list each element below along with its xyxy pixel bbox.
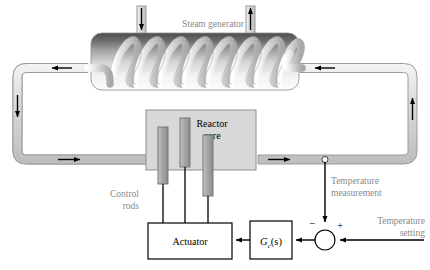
actuator-block[interactable]: Actuator <box>148 223 232 259</box>
summing-minus-sign: − <box>309 217 315 229</box>
summing-junction-circle[interactable] <box>315 230 335 250</box>
steam-generator-label: Steam generator <box>182 19 245 29</box>
controller-block[interactable]: Gc(s) <box>250 221 292 259</box>
temperature-measurement-label-line2: measurement <box>331 188 382 198</box>
temperature-sensor-icon <box>322 157 328 163</box>
temperature-measurement-label-line1: Temperature <box>331 176 379 186</box>
figure-canvas: Steam generator Reactor core Control rod… <box>0 0 430 270</box>
control-rods-label-line1: Control <box>110 189 139 199</box>
control-rod-3 <box>203 135 213 196</box>
summing-junction[interactable]: − + <box>309 217 343 250</box>
reactor-core-label-line1: Reactor <box>196 118 228 129</box>
control-rod-drive-lines <box>163 167 208 223</box>
temperature-setting-label-line2: setting <box>400 228 426 238</box>
reactor-control-diagram: Steam generator Reactor core Control rod… <box>0 0 430 270</box>
temperature-setting-label-line1: Temperature <box>377 216 425 226</box>
temperature-sensor-tap: Temperature measurement <box>322 157 382 223</box>
controller-label-args: (s) <box>271 236 283 248</box>
steam-generator: Steam generator <box>88 6 302 90</box>
control-rod-2 <box>180 118 190 167</box>
actuator-label: Actuator <box>173 236 209 247</box>
control-rods-label-line2: rods <box>123 201 140 211</box>
control-rod-1 <box>158 127 168 184</box>
reactor-core: Reactor core Control rods <box>110 110 256 223</box>
summing-plus-sign: + <box>337 219 343 231</box>
